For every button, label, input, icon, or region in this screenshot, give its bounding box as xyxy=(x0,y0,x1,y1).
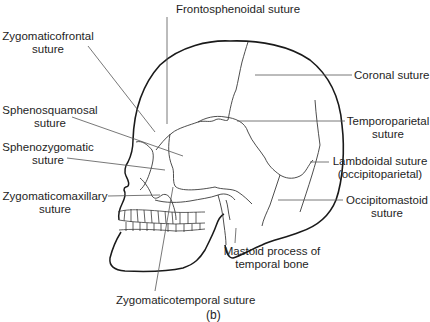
label-text: Mastoid process of xyxy=(222,245,322,258)
label-sphenozygomatic-suture: Sphenozygomatic suture xyxy=(2,141,94,167)
label-text: suture xyxy=(344,207,430,220)
label-occipitomastoid-suture: Occipitomastoid suture xyxy=(344,194,430,220)
label-text: Sphenosquamosal xyxy=(2,104,98,117)
label-text: Zygomaticotemporal suture xyxy=(116,294,255,307)
label-text: temporal bone xyxy=(222,258,322,271)
caption-text: (b) xyxy=(206,309,221,322)
label-sphenosquamosal-suture: Sphenosquamosal suture xyxy=(2,104,98,130)
label-text: suture xyxy=(2,43,94,56)
label-text: (occipitoparietal) xyxy=(330,168,430,181)
label-temporoparietal-suture: Temporoparietal suture xyxy=(346,115,430,141)
label-text: Zygomaticofrontal xyxy=(2,30,94,43)
label-lambdoidal-suture: Lambdoidal suture (occipitoparietal) xyxy=(330,155,430,181)
label-text: Frontosphenoidal suture xyxy=(176,3,300,16)
teeth xyxy=(118,209,205,232)
label-text: Coronal suture xyxy=(354,69,429,82)
label-text: suture xyxy=(2,117,98,130)
label-text: suture xyxy=(2,203,108,216)
figure-caption: (b) xyxy=(206,309,221,322)
label-text: Zygomaticomaxillary xyxy=(2,190,108,203)
label-coronal-suture: Coronal suture xyxy=(354,69,429,82)
label-mastoid-process: Mastoid process of temporal bone xyxy=(222,245,322,271)
label-frontosphenoidal-suture: Frontosphenoidal suture xyxy=(176,3,300,16)
label-zygomaticotemporal-suture: Zygomaticotemporal suture xyxy=(116,294,255,307)
face-outline xyxy=(119,140,133,220)
sutures xyxy=(136,42,320,245)
label-text: suture xyxy=(2,154,94,167)
label-text: Temporoparietal xyxy=(346,115,430,128)
label-text: Sphenozygomatic xyxy=(2,141,94,154)
label-zygomaticomaxillary-suture: Zygomaticomaxillary suture xyxy=(2,190,108,216)
label-text: Lambdoidal suture xyxy=(330,155,430,168)
leader-mastoid xyxy=(235,228,236,243)
label-zygomaticofrontal-suture: Zygomaticofrontal suture xyxy=(2,30,94,56)
leader-zygomaticotemporal xyxy=(155,187,173,291)
label-text: suture xyxy=(346,128,430,141)
label-text: Occipitomastoid xyxy=(344,194,430,207)
